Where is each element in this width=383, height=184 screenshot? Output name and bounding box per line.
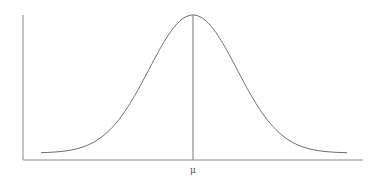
normal-distribution-chart <box>0 0 383 184</box>
mean-label: μ <box>190 165 196 175</box>
bell-curve <box>41 15 347 153</box>
